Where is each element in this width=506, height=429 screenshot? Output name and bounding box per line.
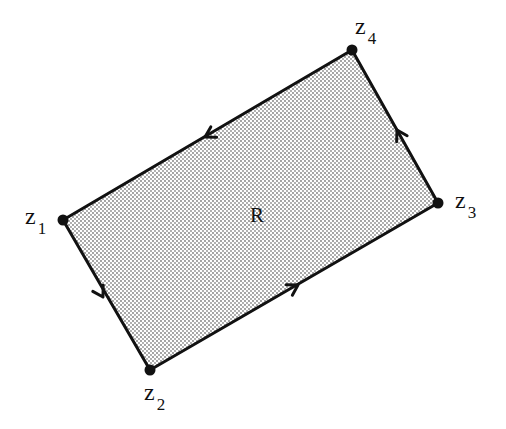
vertex-z3-dot	[433, 198, 444, 209]
vertex-label-z1: z1	[25, 203, 46, 238]
vertex-label-z4: z4	[355, 13, 377, 48]
region-label: R	[250, 203, 264, 227]
contour-diagram: z1 z2 z3 z4 R	[0, 0, 506, 429]
vertex-z2-dot	[145, 365, 156, 376]
vertex-label-z3: z3	[455, 187, 476, 222]
vertex-z1-dot	[58, 215, 69, 226]
vertex-label-z2: z2	[144, 379, 165, 414]
vertex-z4-dot	[347, 45, 358, 56]
